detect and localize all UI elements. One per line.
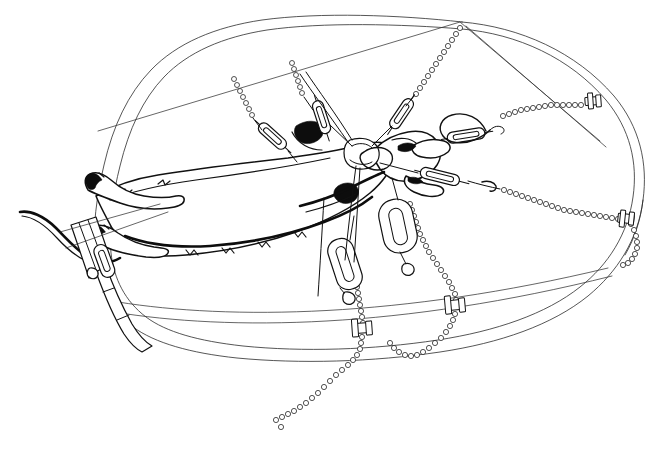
- turnbuckle-6: [376, 196, 420, 256]
- edge-clamp-upper-right[interactable]: [585, 93, 602, 109]
- dissection-illustration: [0, 0, 655, 452]
- bead-chain-3: [413, 25, 462, 96]
- bead-chain-1: [232, 77, 255, 118]
- fore-limb-upper: [412, 140, 450, 158]
- turnbuckle-7: [325, 235, 366, 292]
- turnbuckle-6-eye: [402, 263, 414, 275]
- wire-bottom: [118, 268, 608, 312]
- turnbuckle-8-eye: [87, 268, 98, 279]
- wire-right-2: [466, 26, 606, 147]
- figure-root: [0, 0, 655, 452]
- turnbuckle-7-link-up: [350, 216, 354, 240]
- turnbuckle-2-link-up: [304, 97, 313, 110]
- turnbuckle-7-eye: [343, 292, 355, 305]
- hook-right-tip: [490, 126, 504, 134]
- restraint-rod: [96, 266, 152, 352]
- turnbuckle-6-link-up: [392, 178, 398, 200]
- bead-chain-5: [501, 187, 620, 221]
- turnbuckle-3: [383, 92, 419, 138]
